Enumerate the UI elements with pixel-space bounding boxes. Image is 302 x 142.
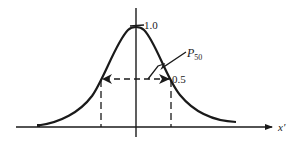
peak-label: 1.0 bbox=[144, 19, 158, 31]
p50-label: P50 bbox=[186, 46, 202, 62]
gaussian-diagram: 1.0 0.5 P50 x′ bbox=[0, 0, 302, 142]
gaussian-curve bbox=[38, 27, 236, 126]
peak-tick bbox=[130, 25, 144, 26]
x-axis-label: x′ bbox=[277, 121, 286, 133]
half-label: 0.5 bbox=[172, 73, 186, 85]
p50-subscript: 50 bbox=[194, 53, 202, 62]
left-tail-mark bbox=[37, 124, 40, 127]
